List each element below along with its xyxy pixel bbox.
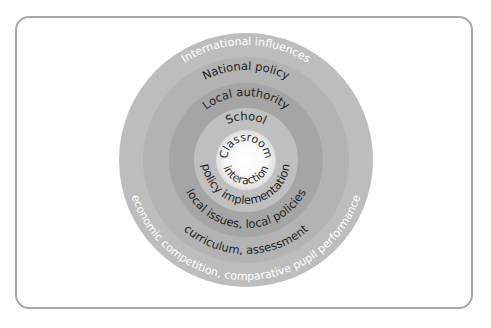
concentric-influence-diagram: International influences National policy… xyxy=(0,0,491,328)
